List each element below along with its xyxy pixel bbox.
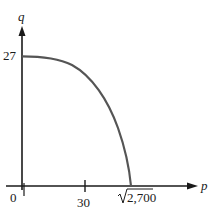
- q-axis-label: q: [18, 10, 25, 23]
- p-axis-label: p: [201, 179, 208, 192]
- q-axis-arrow-icon: [19, 26, 26, 36]
- x-tick-root-label: 2,700: [127, 191, 156, 204]
- x-tick-30-label: 30: [77, 196, 90, 209]
- chart-canvas: [0, 0, 210, 209]
- p-axis-arrow-icon: [187, 183, 198, 190]
- demand-curve: [22, 56, 131, 186]
- origin-label: 0: [10, 191, 17, 204]
- y-tick-27-label: 27: [3, 49, 16, 62]
